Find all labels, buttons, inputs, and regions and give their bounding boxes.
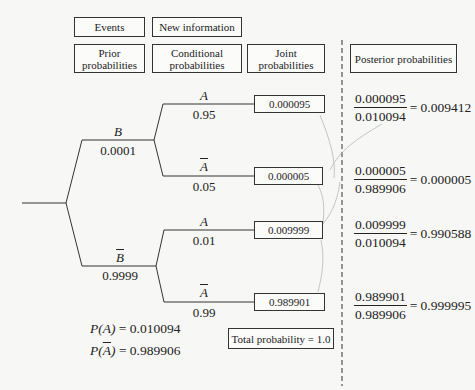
branch-B-notA-label: A — [200, 159, 208, 175]
posterior-result: = 0.999995 — [410, 298, 472, 314]
posterior-notB-given-notA: 0.9899010.989906 = 0.999995 — [354, 289, 471, 322]
posterior-numerator: 0.000095 — [354, 91, 407, 108]
marginal-pnotA-suffix: ) — [111, 343, 116, 358]
branch-notB-notA-prob: 0.99 — [193, 305, 216, 321]
joint-box-notB-A: 0.009999 — [254, 221, 323, 239]
branch-B-prob: 0.0001 — [100, 143, 136, 159]
branch-B-A-prob: 0.95 — [193, 107, 216, 123]
total-probability-box: Total probability = 1.0 — [228, 328, 334, 349]
posterior-numerator: 0.009999 — [354, 217, 407, 234]
posterior-notB-given-A: 0.0099990.010094 = 0.990588 — [354, 217, 471, 250]
marginal-pnotA-value: = 0.989906 — [119, 343, 181, 358]
joint-box-B-A: 0.000095 — [254, 95, 325, 113]
posterior-result: = 0.990588 — [410, 226, 472, 242]
posterior-denominator: 0.989906 — [355, 180, 406, 196]
posterior-denominator: 0.010094 — [355, 108, 406, 124]
joint-box-B-notA: 0.000005 — [254, 167, 323, 185]
posterior-denominator: 0.010094 — [355, 234, 406, 250]
marginal-pnotA: P(A) = 0.989906 — [90, 343, 181, 359]
marginal-pA: P(A) = 0.010094 — [90, 321, 180, 337]
marginal-pA-label: P(A) — [90, 321, 115, 336]
branch-B-notA-prob: 0.05 — [193, 179, 216, 195]
posterior-numerator: 0.000005 — [354, 163, 407, 180]
branch-B-label: B — [114, 124, 122, 140]
branch-notB-A-label: A — [200, 214, 208, 230]
branch-notB-label: B — [116, 250, 124, 266]
posterior-result: = 0.009412 — [410, 100, 472, 116]
posterior-denominator: 0.989906 — [355, 306, 406, 322]
posterior-result: = 0.000005 — [410, 172, 472, 188]
branch-notB-notA-label: A — [200, 285, 208, 301]
posterior-numerator: 0.989901 — [354, 289, 407, 306]
branch-notB-prob: 0.9999 — [102, 268, 138, 284]
joint-box-notB-notA: 0.989901 — [254, 293, 325, 311]
branch-B-A-label: A — [200, 88, 208, 104]
marginal-pnotA-prefix: P( — [90, 343, 103, 358]
marginal-pA-value: = 0.010094 — [119, 321, 181, 336]
posterior-B-given-A: 0.0000950.010094 = 0.009412 — [354, 91, 471, 124]
marginal-pnotA-event: A — [103, 343, 111, 358]
posterior-B-given-notA: 0.0000050.989906 = 0.000005 — [354, 163, 471, 196]
branch-notB-A-prob: 0.01 — [193, 233, 216, 249]
